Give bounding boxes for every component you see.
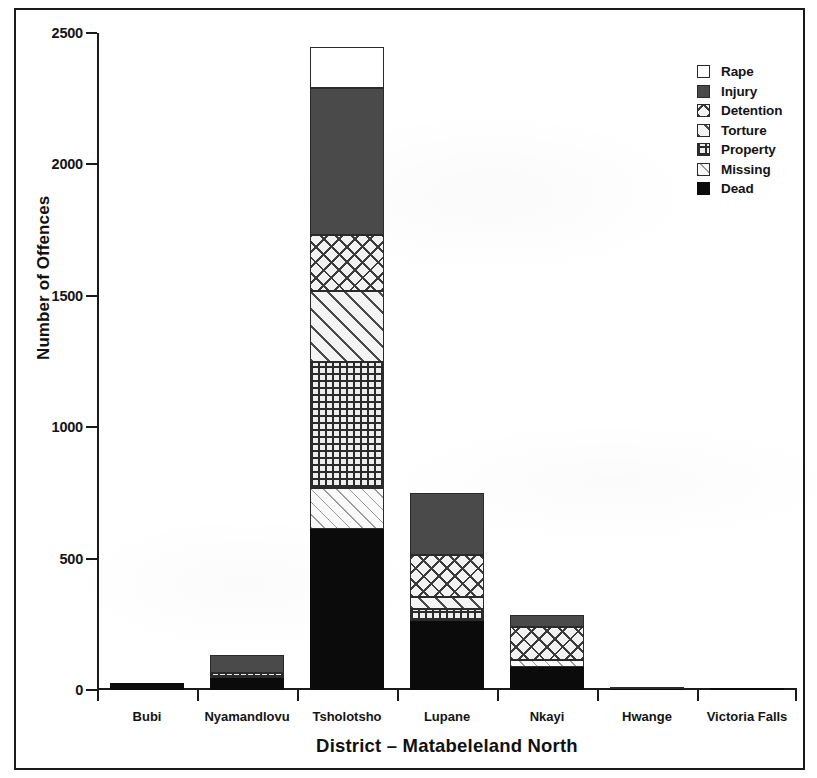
x-tick-mark — [97, 690, 99, 701]
bar-segment-detention[interactable] — [310, 235, 384, 291]
chart-page: Number of Offences District – Matabelela… — [0, 0, 817, 778]
x-tick-mark — [597, 690, 599, 701]
y-tick-label: 2000 — [52, 156, 83, 172]
legend-swatch-detention-icon — [697, 104, 710, 117]
x-tick-label: Tsholotsho — [312, 709, 381, 724]
bar-tsholotsho[interactable] — [310, 47, 384, 690]
bar-segment-detention[interactable] — [410, 555, 484, 597]
x-tick-mark — [297, 690, 299, 701]
x-tick-label: Nkayi — [530, 709, 565, 724]
x-tick-label: Nyamandlovu — [204, 709, 289, 724]
bar-segment-injury[interactable] — [510, 615, 584, 627]
legend-swatch-rape-icon — [697, 65, 710, 78]
legend-label: Torture — [721, 123, 767, 138]
bar-victoria-falls[interactable] — [710, 688, 784, 690]
legend-label: Detention — [721, 103, 782, 118]
bar-segment-dead[interactable] — [510, 667, 584, 690]
bar-nyamandlovu[interactable] — [210, 655, 284, 690]
y-axis-title: Number of Offences — [34, 196, 54, 360]
bar-segment-dead[interactable] — [710, 688, 784, 690]
y-tick-mark — [86, 558, 97, 560]
plot-area: 25002000150010005000 BubiNyamandlovuTsho… — [97, 33, 797, 690]
legend-label: Dead — [721, 181, 754, 196]
bar-segment-missing[interactable] — [510, 660, 584, 667]
y-tick-label: 500 — [59, 551, 83, 567]
legend-swatch-property-icon — [697, 143, 710, 156]
legend-label: Property — [721, 142, 776, 157]
bar-segment-dead[interactable] — [110, 683, 184, 690]
x-tick-mark — [497, 690, 499, 701]
legend-swatch-missing-icon — [697, 163, 710, 176]
legend-swatch-torture-icon — [697, 124, 710, 137]
y-tick-mark — [86, 426, 97, 428]
bar-segment-dead[interactable] — [210, 678, 284, 690]
bar-nkayi[interactable] — [510, 615, 584, 690]
legend-swatch-injury-icon — [697, 85, 710, 98]
x-tick-label: Bubi — [133, 709, 162, 724]
bar-segment-property[interactable] — [410, 609, 484, 621]
x-tick-mark — [197, 690, 199, 701]
bar-segment-injury[interactable] — [310, 88, 384, 235]
legend-item-rape[interactable]: Rape — [697, 62, 807, 82]
y-tick-mark — [86, 163, 97, 165]
legend-item-dead[interactable]: Dead — [697, 179, 807, 199]
bar-segment-detention[interactable] — [510, 627, 584, 660]
legend-item-injury[interactable]: Injury — [697, 82, 807, 102]
bar-segment-property[interactable] — [610, 687, 684, 689]
chart-legend: RapeInjuryDetentionTorturePropertyMissin… — [697, 62, 807, 199]
y-tick-mark — [86, 295, 97, 297]
y-axis-line — [97, 33, 99, 690]
legend-item-property[interactable]: Property — [697, 140, 807, 160]
x-tick-label: Hwange — [622, 709, 672, 724]
bar-segment-dead[interactable] — [310, 529, 384, 690]
bar-segment-missing[interactable] — [310, 488, 384, 529]
x-axis-title: District – Matabeleland North — [97, 735, 797, 757]
x-tick-label: Lupane — [424, 709, 470, 724]
bar-lupane[interactable] — [410, 493, 484, 690]
bar-segment-injury[interactable] — [410, 493, 484, 555]
bar-segment-injury[interactable] — [210, 655, 284, 673]
bar-segment-property[interactable] — [210, 673, 284, 678]
y-tick-label: 1000 — [52, 419, 83, 435]
y-tick-label: 2500 — [52, 25, 83, 41]
y-tick-mark — [86, 32, 97, 34]
bar-segment-torture[interactable] — [310, 291, 384, 362]
legend-swatch-dead-icon — [697, 182, 710, 195]
y-tick-mark — [86, 689, 97, 691]
bar-segment-torture[interactable] — [410, 597, 484, 609]
x-tick-mark — [697, 690, 699, 701]
legend-item-missing[interactable]: Missing — [697, 160, 807, 180]
legend-item-detention[interactable]: Detention — [697, 101, 807, 121]
bar-segment-dead[interactable] — [410, 621, 484, 690]
bar-bubi[interactable] — [110, 683, 184, 690]
bar-segment-property[interactable] — [310, 362, 384, 488]
y-tick-label: 1500 — [52, 288, 83, 304]
bar-hwange[interactable] — [610, 688, 684, 690]
y-tick-label: 0 — [75, 682, 83, 698]
legend-label: Rape — [721, 64, 754, 79]
legend-item-torture[interactable]: Torture — [697, 121, 807, 141]
x-tick-mark — [397, 690, 399, 701]
bar-segment-rape[interactable] — [310, 47, 384, 88]
legend-label: Missing — [721, 162, 771, 177]
legend-label: Injury — [721, 84, 757, 99]
x-tick-label: Victoria Falls — [707, 709, 788, 724]
x-tick-mark — [795, 690, 797, 701]
